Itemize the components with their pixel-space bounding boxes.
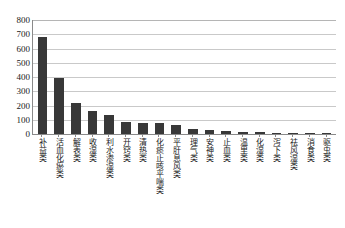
bar-slot bbox=[318, 20, 335, 134]
x-tick-label: 利水渗湿类 bbox=[104, 138, 113, 178]
x-tick-label: 驱虫类 bbox=[321, 138, 330, 162]
x-tick-label: 化痰止咳平喘类 bbox=[154, 138, 163, 194]
y-tick-label: 700 bbox=[0, 30, 30, 39]
bar-slot bbox=[201, 20, 218, 134]
x-tick-label: 活血化瘀类 bbox=[54, 138, 63, 178]
x-tick-label: 泻下类 bbox=[271, 138, 280, 162]
bar-slot bbox=[285, 20, 302, 134]
bar-slot bbox=[268, 20, 285, 134]
bar-slot bbox=[34, 20, 51, 134]
tick-mark-icon bbox=[125, 134, 126, 137]
x-label-slot: 收湿类 bbox=[83, 138, 100, 226]
bar-slot bbox=[151, 20, 168, 134]
x-tick-label: 理气类 bbox=[188, 138, 197, 162]
bar-slot bbox=[184, 20, 201, 134]
x-tick-label: 平肝息风类 bbox=[171, 138, 180, 178]
y-tick-label: 800 bbox=[0, 16, 30, 25]
x-label-slot: 平肝息风类 bbox=[167, 138, 184, 226]
x-label-slot: 祛风湿类 bbox=[284, 138, 301, 226]
bar bbox=[54, 78, 64, 134]
x-label-slot: 止血类 bbox=[217, 138, 234, 226]
bar-slot bbox=[251, 20, 268, 134]
x-tick-label: 解表类 bbox=[71, 138, 80, 162]
x-tick-label: 温里类 bbox=[238, 138, 247, 162]
x-label-slot: 泻下类 bbox=[267, 138, 284, 226]
x-label-slot: 开窍类 bbox=[117, 138, 134, 226]
x-label-slot: 清热类 bbox=[133, 138, 150, 226]
x-label-slot: 理气类 bbox=[183, 138, 200, 226]
bar bbox=[71, 103, 81, 134]
bar bbox=[38, 37, 48, 134]
x-label-slot: 活血化瘀类 bbox=[50, 138, 67, 226]
x-tick-label: 补益类 bbox=[37, 138, 46, 162]
y-tick-label: 0 bbox=[0, 130, 30, 139]
bar-slot bbox=[302, 20, 319, 134]
x-label-slot: 解表类 bbox=[66, 138, 83, 226]
bar-slot bbox=[168, 20, 185, 134]
tick-mark-icon bbox=[158, 134, 159, 137]
x-label-slot: 补益类 bbox=[33, 138, 50, 226]
y-tick-label: 600 bbox=[0, 44, 30, 53]
bar-slot bbox=[218, 20, 235, 134]
plot-area bbox=[32, 20, 336, 135]
bar bbox=[121, 122, 131, 134]
y-tick-label: 100 bbox=[0, 115, 30, 124]
tick-mark-icon bbox=[41, 134, 42, 137]
bars bbox=[33, 20, 336, 134]
x-label-slot: 利水渗湿类 bbox=[100, 138, 117, 226]
bar-slot bbox=[101, 20, 118, 134]
x-tick-label: 开窍类 bbox=[121, 138, 130, 162]
bar bbox=[171, 125, 181, 134]
tick-mark-icon bbox=[92, 134, 93, 137]
x-tick-label: 清热类 bbox=[137, 138, 146, 162]
tick-mark-icon bbox=[192, 134, 193, 137]
tick-mark-icon bbox=[309, 134, 310, 137]
tick-mark-icon bbox=[209, 134, 210, 137]
x-label-slot: 化痰止咳平喘类 bbox=[150, 138, 167, 226]
x-axis-labels: 补益类活血化瘀类解表类收湿类利水渗湿类开窍类清热类化痰止咳平喘类平肝息风类理气类… bbox=[32, 138, 335, 226]
tick-mark-icon bbox=[259, 134, 260, 137]
tick-mark-icon bbox=[175, 134, 176, 137]
y-tick-label: 300 bbox=[0, 87, 30, 96]
y-axis: 0100200300400500600700800 bbox=[0, 14, 30, 136]
bar bbox=[155, 123, 165, 134]
y-tick-label: 400 bbox=[0, 73, 30, 82]
bar bbox=[138, 123, 148, 134]
tick-mark-icon bbox=[242, 134, 243, 137]
tick-mark-icon bbox=[142, 134, 143, 137]
x-label-slot: 温里类 bbox=[234, 138, 251, 226]
tick-mark-icon bbox=[108, 134, 109, 137]
bar-slot bbox=[67, 20, 84, 134]
tick-mark-icon bbox=[292, 134, 293, 137]
x-label-slot: 消食类 bbox=[301, 138, 318, 226]
y-tick-label: 200 bbox=[0, 101, 30, 110]
tick-mark-icon bbox=[58, 134, 59, 137]
bar-chart: 0100200300400500600700800 补益类活血化瘀类解表类收湿类… bbox=[0, 0, 345, 228]
bar-slot bbox=[84, 20, 101, 134]
x-label-slot: 驱虫类 bbox=[317, 138, 334, 226]
bar-slot bbox=[118, 20, 135, 134]
tick-mark-icon bbox=[326, 134, 327, 137]
x-tick-label: 化湿类 bbox=[254, 138, 263, 162]
x-tick-label: 安神类 bbox=[204, 138, 213, 162]
tick-mark-icon bbox=[75, 134, 76, 137]
x-tick-label: 消食类 bbox=[305, 138, 314, 162]
x-tick-label: 祛风湿类 bbox=[288, 138, 297, 170]
tick-mark-icon bbox=[275, 134, 276, 137]
x-label-slot: 安神类 bbox=[200, 138, 217, 226]
y-tick-label: 500 bbox=[0, 58, 30, 67]
bar-slot bbox=[51, 20, 68, 134]
bar-slot bbox=[235, 20, 252, 134]
bar bbox=[104, 115, 114, 134]
x-tick-label: 收湿类 bbox=[87, 138, 96, 162]
bar-slot bbox=[134, 20, 151, 134]
x-tick-label: 止血类 bbox=[221, 138, 230, 162]
bar bbox=[88, 111, 98, 134]
tick-mark-icon bbox=[225, 134, 226, 137]
x-label-slot: 化湿类 bbox=[250, 138, 267, 226]
